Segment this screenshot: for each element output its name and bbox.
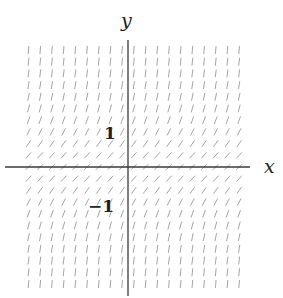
slope-segment: [227, 81, 228, 89]
slope-segment: [238, 222, 240, 230]
slope-segment: [144, 128, 148, 135]
slope-segment: [38, 176, 43, 182]
slope-segment: [120, 187, 125, 194]
slope-segment: [178, 152, 183, 158]
slope-segment: [98, 69, 99, 77]
slope-segment: [122, 245, 123, 253]
slope-segment: [167, 128, 171, 135]
slope-segment: [63, 280, 64, 288]
slope-segment: [132, 187, 137, 194]
slope-segment: [51, 210, 54, 218]
slope-segment: [227, 280, 228, 288]
slope-segment: [75, 69, 76, 77]
slope-segment: [110, 46, 111, 54]
slope-segment: [180, 69, 181, 77]
slope-segment: [145, 69, 146, 77]
slope-segment: [51, 116, 54, 124]
slope-segment: [61, 176, 66, 182]
slope-segment: [145, 93, 147, 101]
slope-segment: [226, 105, 228, 113]
slope-segment: [98, 280, 99, 288]
slope-segment: [192, 69, 193, 77]
slope-segment: [180, 58, 181, 66]
slope-segment: [180, 81, 181, 89]
slope-segment: [202, 140, 207, 147]
slope-segment: [227, 268, 228, 276]
slope-segment: [39, 116, 42, 124]
slope-segment: [50, 140, 55, 147]
slope-segment: [145, 280, 146, 288]
slope-segment: [51, 105, 53, 113]
slope-segment: [98, 268, 99, 276]
slope-segment: [215, 69, 216, 77]
slope-segment: [27, 128, 31, 135]
slope-segment: [215, 46, 216, 54]
slope-segment: [97, 128, 101, 135]
slope-segment: [52, 46, 53, 54]
slope-segment: [157, 257, 158, 265]
slope-segment: [192, 257, 193, 265]
slope-segment: [190, 176, 195, 182]
slope-segment: [180, 245, 181, 253]
x-axis-label: x: [264, 155, 275, 177]
slope-segment: [133, 233, 135, 241]
slope-segment: [122, 81, 123, 89]
slope-segment: [192, 233, 194, 241]
slope-segment: [226, 116, 229, 124]
slope-segment: [227, 245, 228, 253]
slope-segment: [157, 46, 158, 54]
slope-segment: [169, 46, 170, 54]
slope-segment: [39, 222, 41, 230]
slope-segment: [203, 81, 204, 89]
slope-segment: [51, 81, 52, 89]
slope-segment: [227, 69, 228, 77]
slope-segment: [109, 105, 111, 113]
slope-segment: [50, 199, 54, 206]
slope-segment: [145, 257, 146, 265]
slope-segment: [203, 116, 206, 124]
slope-segment: [157, 81, 158, 89]
slope-segment: [87, 280, 88, 288]
slope-segment: [180, 268, 181, 276]
slope-segment: [204, 257, 205, 265]
slope-segment: [63, 257, 64, 265]
slope-segment: [190, 152, 195, 158]
slope-segment: [214, 116, 217, 124]
slope-segment: [157, 69, 158, 77]
slope-segment: [28, 268, 29, 276]
slope-segment: [27, 210, 30, 218]
slope-segment: [26, 187, 31, 194]
slope-segment: [85, 128, 89, 135]
slope-segment: [96, 152, 101, 158]
slope-segment: [108, 176, 113, 182]
slope-segment: [156, 116, 159, 124]
slope-segment: [63, 222, 65, 230]
slope-segment: [63, 268, 64, 276]
slope-segment: [168, 222, 170, 230]
y-axis-label: y: [120, 9, 132, 31]
slope-segment: [98, 257, 99, 265]
slope-segment: [84, 152, 89, 158]
slope-segment: [155, 152, 160, 158]
slope-segment: [86, 222, 88, 230]
slope-segment: [49, 152, 54, 158]
slope-segment: [143, 176, 148, 182]
slope-segment: [191, 105, 193, 113]
slope-segment: [226, 199, 230, 206]
slope-segment: [192, 93, 194, 101]
slope-segment: [98, 93, 100, 101]
slope-field-plot: x y 1 −1: [0, 0, 283, 298]
slope-segment: [157, 280, 158, 288]
slope-segment: [236, 152, 241, 158]
slope-segment: [214, 128, 218, 135]
slope-segment: [63, 93, 65, 101]
slope-segment: [203, 105, 205, 113]
slope-segment: [74, 210, 77, 218]
slope-segment: [144, 222, 146, 230]
slope-segment: [155, 128, 159, 135]
slope-segment: [168, 81, 169, 89]
slope-segment: [168, 93, 170, 101]
slope-segment: [191, 199, 195, 206]
slope-segment: [96, 176, 101, 182]
slope-segment: [52, 280, 53, 288]
